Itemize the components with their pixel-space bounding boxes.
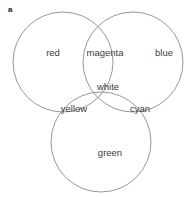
region-label-green: green	[98, 148, 122, 158]
red-circle	[13, 12, 113, 112]
region-label-yellow: yellow	[61, 104, 87, 114]
venn-diagram-figure: a red magenta blue white yellow cyan gre…	[0, 0, 193, 197]
region-label-blue: blue	[155, 48, 173, 58]
blue-circle	[83, 12, 183, 112]
region-label-white: white	[97, 82, 119, 92]
venn-circles-svg	[0, 0, 193, 197]
region-label-cyan: cyan	[130, 104, 150, 114]
region-label-red: red	[46, 48, 60, 58]
region-label-magenta: magenta	[87, 48, 124, 58]
